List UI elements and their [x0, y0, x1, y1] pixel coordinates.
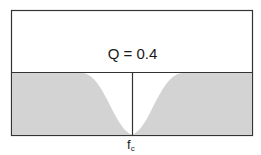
notch-filter-diagram — [0, 0, 261, 155]
q-factor-label: Q = 0.4 — [0, 45, 261, 62]
center-frequency-label: fc — [127, 137, 135, 153]
fc-subscript: c — [131, 144, 135, 153]
